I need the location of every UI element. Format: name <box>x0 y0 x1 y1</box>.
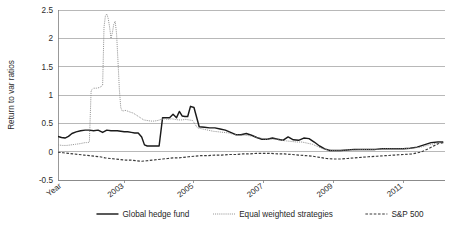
x-axis-tick-label: 2011 <box>385 181 405 199</box>
y-axis-tick-label: 0 <box>48 148 53 157</box>
series-layer <box>58 14 443 161</box>
x-axis-tick-label: 2007 <box>245 181 265 199</box>
x-axis-tick-label: 2009 <box>315 181 335 199</box>
y-axis-tick-label: 1 <box>48 91 53 100</box>
legend: Global hedge fundEqual weighted strategi… <box>96 210 424 219</box>
y-axis-tick-label: 0.5 <box>42 119 54 128</box>
line-chart: 2.521.510.50-0.520032005200720092011Year… <box>0 0 457 233</box>
legend-label: S&P 500 <box>391 210 424 219</box>
x-axis-tick-label: 2005 <box>176 181 196 199</box>
series-line-global-hedge-fund <box>58 106 443 150</box>
legend-label: Equal weighted strategies <box>239 210 333 219</box>
y-axis-title: Return to var ratios <box>7 60 16 130</box>
y-axis-tick-label: 2.5 <box>42 6 54 15</box>
x-axis-tick-label: 2003 <box>106 181 126 199</box>
y-axis-tick-label: 1.5 <box>42 63 54 72</box>
y-axis-tick-label: -0.5 <box>39 176 54 185</box>
chart-container: 2.521.510.50-0.520032005200720092011Year… <box>0 0 457 233</box>
legend-label: Global hedge fund <box>122 210 189 219</box>
y-axis-tick-label: 2 <box>48 34 53 43</box>
